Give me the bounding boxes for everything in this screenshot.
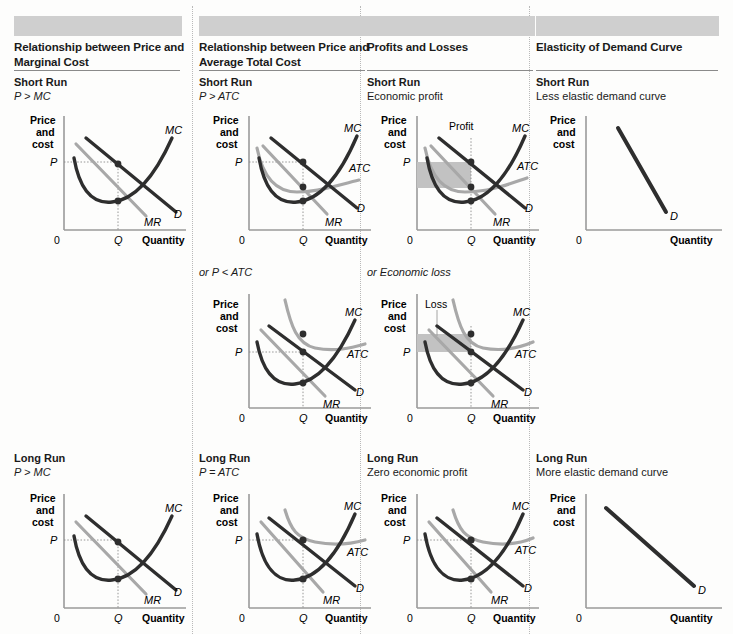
- axis-label-cost: cost: [32, 138, 54, 150]
- curve-label-mc: MC: [513, 306, 530, 318]
- axis-label-price: Price: [550, 114, 576, 126]
- curve-label-atc: ATC: [346, 348, 368, 360]
- column-rule: [14, 70, 180, 71]
- curve-label-d: D: [525, 202, 533, 214]
- marker-price-point: [300, 349, 307, 356]
- chart-c3r2: Price and cost Loss P Q 0 Quantity MC AT…: [367, 286, 545, 436]
- section-title: Short Run: [199, 76, 379, 89]
- curve-label-d: D: [698, 584, 706, 596]
- curve-label-atc: ATC: [346, 546, 368, 558]
- section-title: Long Run: [199, 452, 379, 465]
- column-header-bar: [367, 16, 535, 36]
- section-subtitle: More elastic demand curve: [536, 465, 716, 479]
- curve-label-mc: MC: [512, 122, 529, 134]
- curve-label-atc: ATC: [516, 160, 538, 172]
- curve-label-d: D: [524, 386, 532, 398]
- marker-mr-mc-point: [115, 576, 122, 583]
- section-title: Long Run: [536, 452, 716, 465]
- tick-origin: 0: [576, 612, 582, 624]
- section-short-run: Short Run Less elastic demand curve: [536, 76, 716, 103]
- chart-c2r1: Price and cost P Q 0 Quantity MC ATC D M…: [199, 108, 377, 258]
- tick-price: P: [50, 156, 58, 168]
- curve-label-mr: MR: [323, 594, 340, 606]
- column-title: Profits and Losses: [367, 40, 542, 55]
- tick-quantity: Q: [299, 234, 308, 246]
- curve-label-mr: MR: [491, 398, 508, 410]
- axis-label-cost: cost: [384, 322, 406, 334]
- axis-label-quantity: Quantity: [325, 234, 368, 246]
- tick-origin: 0: [407, 612, 413, 624]
- marker-price-point: [115, 539, 122, 546]
- chart-c3r3: Price and cost P Q 0 Quantity MC ATC D M…: [367, 486, 545, 634]
- axis-label-and: and: [36, 126, 55, 138]
- column-price-average-total-cost: Relationship between Price and Average T…: [199, 0, 369, 634]
- section-subtitle: P > ATC: [199, 89, 379, 103]
- tick-origin: 0: [407, 412, 413, 424]
- column-title: Elasticity of Demand Curve: [536, 40, 726, 55]
- section-long-run: Long Run Zero economic profit: [367, 452, 547, 479]
- column-header-bar: [536, 16, 719, 36]
- tick-origin: 0: [239, 612, 245, 624]
- curve-d: [606, 508, 694, 586]
- axis-label-and: and: [557, 126, 576, 138]
- marker-atc-point: [300, 331, 307, 338]
- section-subtitle: Economic profit: [367, 89, 547, 103]
- marker-mr-mc-point: [299, 575, 306, 582]
- axis-label-quantity: Quantity: [142, 612, 185, 624]
- marker-tangency-point: [467, 536, 474, 543]
- axis-label-quantity: Quantity: [493, 234, 536, 246]
- tick-price: P: [235, 534, 243, 546]
- curve-label-atc: ATC: [514, 348, 536, 360]
- section-title: Long Run: [14, 452, 194, 465]
- chart-c3r1: Price and cost Profit P Q 0 Quantity MC …: [367, 108, 545, 258]
- axis-label-quantity: Quantity: [670, 234, 713, 246]
- column-rule: [367, 70, 533, 71]
- tick-origin: 0: [54, 612, 60, 624]
- marker-mr-mc-point: [467, 575, 474, 582]
- section-long-run: Long Run P > MC: [14, 452, 194, 479]
- marker-mr-mc-point: [300, 198, 307, 205]
- section-short-run: Short Run Economic profit: [367, 76, 547, 103]
- annotation-profit: Profit: [449, 120, 474, 132]
- curve-label-d: D: [670, 210, 678, 222]
- tick-quantity: Q: [467, 234, 476, 246]
- axis-label-price: Price: [213, 114, 239, 126]
- chart-c1r1: Price and cost P Q 0 Quantity MC D MR: [14, 108, 192, 258]
- chart-c4r3: Price and cost D 0 Quantity: [536, 486, 728, 634]
- column-profits-and-losses: Profits and Losses Short Run Economic pr…: [367, 0, 537, 634]
- curve-label-d: D: [174, 208, 182, 220]
- section-title: Long Run: [367, 452, 547, 465]
- axis-label-quantity: Quantity: [670, 612, 713, 624]
- axis-label-quantity: Quantity: [325, 412, 368, 424]
- marker-price-point: [300, 159, 307, 166]
- section-subtitle: Zero economic profit: [367, 465, 547, 479]
- tick-price: P: [235, 346, 243, 358]
- curve-label-mr: MR: [325, 216, 342, 228]
- tick-origin: 0: [407, 234, 413, 246]
- marker-price-point: [115, 161, 122, 168]
- axis-label-cost: cost: [216, 322, 238, 334]
- curve-d: [618, 128, 666, 212]
- tick-origin: 0: [239, 234, 245, 246]
- curve-label-d: D: [356, 582, 364, 594]
- axis-label-price: Price: [381, 492, 407, 504]
- marker-atc-point: [468, 184, 475, 191]
- tick-quantity: Q: [114, 612, 123, 624]
- section-title: Short Run: [14, 76, 194, 89]
- curve-label-mc: MC: [165, 502, 182, 514]
- marker-atc-point: [300, 184, 307, 191]
- curve-label-mr: MR: [491, 594, 508, 606]
- axis-label-quantity: Quantity: [493, 412, 536, 424]
- section-title: Short Run: [536, 76, 716, 89]
- axis-label-cost: cost: [384, 516, 406, 528]
- axis-label-price: Price: [550, 492, 576, 504]
- tick-origin: 0: [239, 412, 245, 424]
- axis-label-and: and: [36, 504, 55, 516]
- or-label-price-below-atc: or P < ATC: [199, 266, 252, 279]
- column-rule: [199, 70, 365, 71]
- axis-label-cost: cost: [216, 516, 238, 528]
- curve-label-mc: MC: [344, 500, 361, 512]
- axis-label-quantity: Quantity: [142, 234, 185, 246]
- axis-label-price: Price: [381, 114, 407, 126]
- curve-mr: [261, 330, 325, 396]
